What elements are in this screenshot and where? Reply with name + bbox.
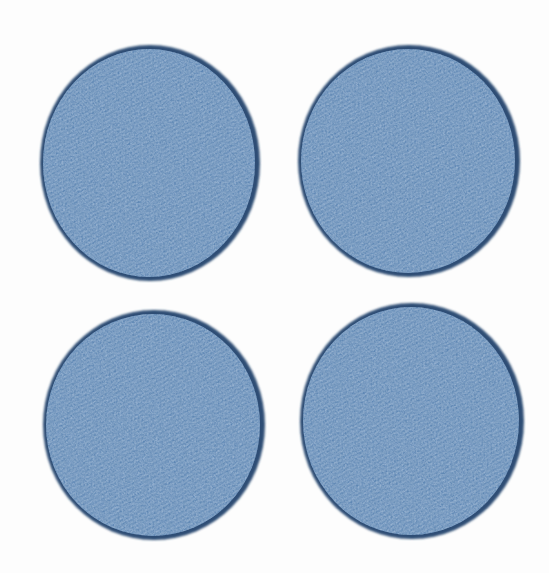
patch-dark-mottle	[301, 49, 515, 273]
denim-patch-top-left	[40, 45, 260, 281]
denim-patch-bottom-right	[300, 303, 524, 539]
patches-image	[0, 0, 549, 573]
patch-dark-mottle	[303, 307, 519, 535]
denim-patch-bottom-left	[43, 310, 265, 540]
patch-dark-mottle	[46, 314, 260, 536]
patch-dark-mottle	[43, 49, 255, 277]
denim-patch-top-right	[298, 45, 520, 277]
product-photo	[0, 0, 549, 573]
